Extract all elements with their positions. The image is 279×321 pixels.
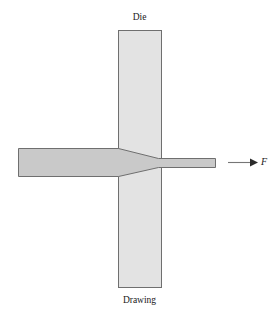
force-label: F	[261, 157, 267, 167]
drawing-process-diagram: Die Drawing F	[0, 0, 279, 321]
diagram-canvas	[0, 0, 279, 321]
die-label: Die	[0, 13, 279, 23]
force-arrow-icon	[228, 159, 258, 167]
process-label: Drawing	[0, 296, 279, 306]
workpiece	[19, 149, 216, 177]
